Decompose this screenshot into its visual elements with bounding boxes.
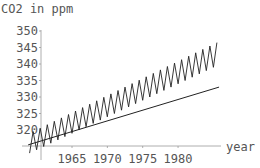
y-tick-label: 350 — [16, 24, 38, 38]
x-tick-label: 1980 — [164, 152, 193, 166]
x-axis-label: year — [226, 140, 255, 154]
x-tick-label: 1970 — [93, 152, 122, 166]
y-tick-label: 340 — [16, 57, 38, 71]
co2-chart: CO2 in ppm 320325330335340345350 1965197… — [0, 0, 260, 168]
y-axis-label: CO2 in ppm — [1, 2, 73, 16]
co2-seasonal-series — [30, 43, 217, 154]
x-axis-ticks: 1965197019751980 — [58, 146, 193, 166]
y-axis-ticks: 320325330335340345350 — [16, 24, 41, 137]
y-tick-label: 330 — [16, 90, 38, 104]
x-tick-label: 1975 — [128, 152, 157, 166]
x-tick-label: 1965 — [58, 152, 87, 166]
y-tick-label: 335 — [16, 74, 38, 88]
y-tick-label: 325 — [16, 107, 38, 121]
y-tick-label: 320 — [16, 123, 38, 137]
y-tick-label: 345 — [16, 41, 38, 55]
